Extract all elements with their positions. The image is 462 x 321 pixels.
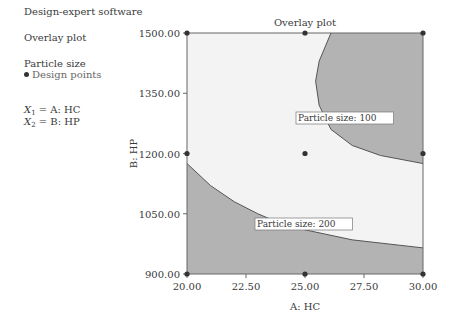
design-point: [302, 271, 307, 276]
x-tick-label: 22.50: [232, 281, 261, 292]
x-tick-label: 27.50: [350, 281, 379, 292]
y-axis-label: B: HP: [128, 139, 139, 169]
contour-label: Particle size: 200: [257, 219, 336, 229]
y-tick-label: 1200.00: [139, 149, 180, 160]
design-point: [420, 151, 425, 156]
design-point: [302, 151, 307, 156]
design-point: [420, 271, 425, 276]
design-point: [184, 151, 189, 156]
y-tick-label: 1350.00: [139, 88, 180, 99]
contour-label: Particle size: 100: [298, 113, 377, 123]
design-point: [420, 30, 425, 35]
x-tick-label: 25.00: [291, 281, 320, 292]
design-point: [184, 271, 189, 276]
x-tick-label: 30.00: [409, 281, 438, 292]
chart-title: Overlay plot: [274, 17, 336, 28]
y-tick-label: 900.00: [145, 269, 180, 280]
design-point: [302, 30, 307, 35]
y-tick-label: 1500.00: [139, 28, 180, 39]
x-tick-label: 20.00: [173, 281, 202, 292]
y-tick-label: 1050.00: [139, 209, 180, 220]
x-axis-label: A: HC: [289, 301, 320, 312]
overlay-plot: 20.0022.5025.0027.5030.00900.001050.0012…: [0, 0, 462, 321]
design-point: [184, 30, 189, 35]
